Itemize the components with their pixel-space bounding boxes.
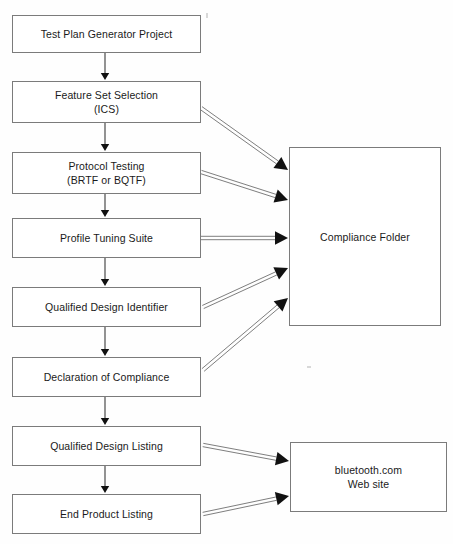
node-protocol-testing[interactable]: Protocol Testing (BRTF or BQTF) xyxy=(12,152,201,194)
node-test-plan-generator-project[interactable]: Test Plan Generator Project xyxy=(12,15,201,53)
node-label: Profile Tuning Suite xyxy=(56,231,157,245)
edge-end-product-listing-to-bluetooth-com-web-site xyxy=(203,492,289,516)
node-profile-tuning-suite[interactable]: Profile Tuning Suite xyxy=(12,218,201,258)
node-label: Test Plan Generator Project xyxy=(37,27,177,41)
edge-feature-set-selection-to-protocol-testing xyxy=(101,123,109,151)
edge-protocol-testing-to-compliance-folder xyxy=(200,170,288,202)
scan-speck xyxy=(206,13,208,18)
edge-declaration-of-compliance-to-compliance-folder xyxy=(202,298,288,371)
node-label: Feature Set Selection (ICS) xyxy=(51,88,162,116)
node-label: bluetooth.com Web site xyxy=(331,463,406,491)
node-declaration-of-compliance[interactable]: Declaration of Compliance xyxy=(12,357,201,397)
edge-declaration-of-compliance-to-qualified-design-listing xyxy=(101,397,109,425)
node-compliance-folder[interactable]: Compliance Folder xyxy=(289,147,441,326)
node-qualified-design-listing[interactable]: Qualified Design Listing xyxy=(12,426,201,466)
node-bluetooth-com-web-site[interactable]: bluetooth.com Web site xyxy=(290,442,447,512)
node-end-product-listing[interactable]: End Product Listing xyxy=(12,494,201,534)
flowchart-canvas: Test Plan Generator Project Feature Set … xyxy=(0,0,453,544)
node-label: Protocol Testing (BRTF or BQTF) xyxy=(63,159,150,187)
edge-qualified-design-identifier-to-declaration-of-compliance xyxy=(101,327,109,356)
node-label: Compliance Folder xyxy=(316,230,414,244)
edge-qualified-design-listing-to-end-product-listing xyxy=(101,466,109,493)
node-label: Qualified Design Listing xyxy=(46,439,167,453)
node-feature-set-selection[interactable]: Feature Set Selection (ICS) xyxy=(12,81,201,123)
node-qualified-design-identifier[interactable]: Qualified Design Identifier xyxy=(12,287,201,327)
edge-test-plan-generator-project-to-feature-set-selection xyxy=(101,53,109,80)
node-label: Qualified Design Identifier xyxy=(41,300,172,314)
edge-qualified-design-listing-to-bluetooth-com-web-site xyxy=(203,443,289,465)
edge-protocol-testing-to-profile-tuning-suite xyxy=(101,194,109,217)
node-label: Declaration of Compliance xyxy=(40,370,174,384)
edge-feature-set-selection-to-compliance-folder xyxy=(200,107,288,170)
edge-profile-tuning-suite-to-compliance-folder xyxy=(201,231,288,245)
node-label: End Product Listing xyxy=(56,507,157,521)
scan-speck xyxy=(307,366,311,368)
edge-profile-tuning-suite-to-qualified-design-identifier xyxy=(101,258,109,286)
